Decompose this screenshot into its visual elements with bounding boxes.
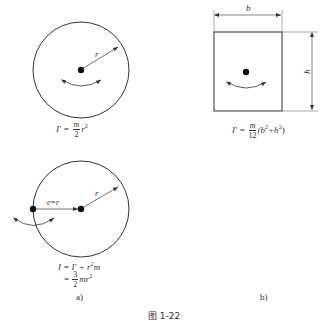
- radius-label: r: [95, 50, 99, 59]
- rotation-arrow-icon: [62, 80, 101, 86]
- bottom-disk-formula-line2: = 3 2 mr2: [64, 271, 92, 289]
- width-label: b: [246, 4, 251, 13]
- fraction: m 2: [73, 121, 81, 139]
- top-disk: [33, 22, 129, 118]
- fraction: m 12: [249, 122, 257, 140]
- rectangular-plate: [214, 10, 318, 111]
- center-of-mass-dot: [78, 206, 84, 212]
- radius-label: r: [95, 189, 99, 198]
- height-label: h: [303, 69, 312, 74]
- figure-caption: 图 1-22: [148, 312, 180, 321]
- center-of-mass-dot: [243, 69, 249, 75]
- radius-arrow: [82, 187, 118, 208]
- panel-a-label: a): [76, 293, 83, 302]
- plate-formula: I′ = m 12 (b2+h2): [232, 122, 285, 140]
- radius-arrow: [82, 47, 118, 69]
- offset-label: e=r: [47, 199, 59, 207]
- top-disk-formula: I′ = m 2 r2: [56, 121, 88, 139]
- bottom-disk: [14, 161, 129, 257]
- panel-b-label: b): [260, 293, 268, 302]
- diagram-canvas: [0, 0, 322, 321]
- center-of-mass-dot: [78, 67, 84, 73]
- rotation-arrow-icon: [227, 82, 266, 88]
- fraction: 3 2: [72, 271, 78, 289]
